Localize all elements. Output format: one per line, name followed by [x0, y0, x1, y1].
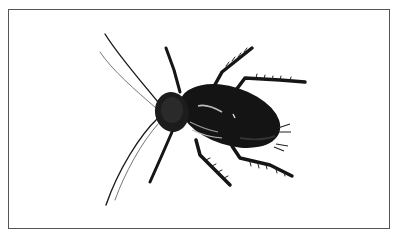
antennae — [100, 34, 158, 205]
cockroach-body — [152, 72, 291, 159]
cockroach-illustration — [0, 0, 400, 238]
